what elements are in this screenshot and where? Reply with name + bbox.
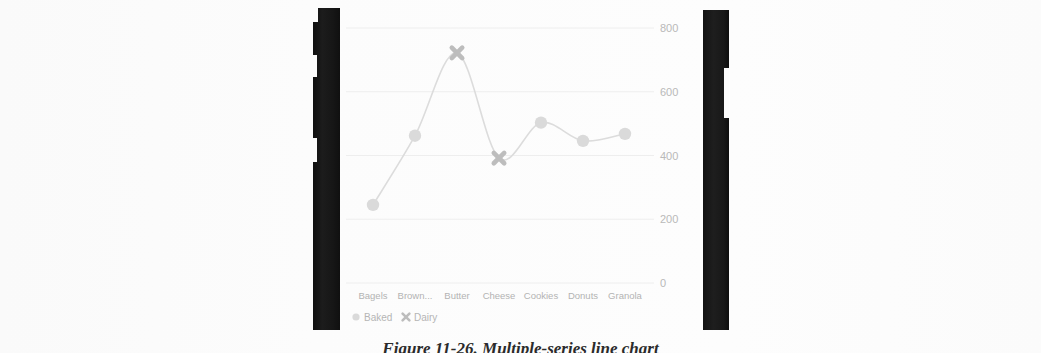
legend-label: Baked [364, 312, 392, 323]
scanned-figure-page: 0200400600800 BagelsBrown...ButterCheese… [0, 0, 1041, 353]
x-axis-category-label: Cookies [524, 290, 559, 301]
y-axis-tick-label: 200 [660, 213, 678, 225]
data-marker-circle [367, 199, 379, 211]
chart-series-line [373, 53, 625, 205]
scan-gutter-left-notch-lower [313, 138, 317, 162]
series-line-path [373, 53, 625, 205]
x-axis-category-labels: BagelsBrown...ButterCheeseCookiesDonutsG… [358, 290, 642, 301]
data-marker-circle [619, 128, 631, 140]
legend-label: Dairy [414, 312, 437, 323]
y-axis-tick-label: 0 [660, 277, 666, 289]
scan-gutter-left-notch-top [313, 8, 318, 22]
scan-gutter-right-notch [724, 68, 729, 118]
y-axis-tick-labels: 0200400600800 [660, 22, 678, 289]
scan-gutter-left [313, 8, 340, 330]
x-axis-category-label: Donuts [568, 290, 598, 301]
data-marker-circle [535, 116, 547, 128]
x-axis-category-label: Brown... [398, 290, 433, 301]
x-axis-category-label: Cheese [483, 290, 516, 301]
y-axis-tick-label: 600 [660, 86, 678, 98]
legend-marker-circle [352, 313, 359, 320]
x-axis-category-label: Bagels [358, 290, 387, 301]
line-chart-figure: 0200400600800 BagelsBrown...ButterCheese… [340, 8, 690, 328]
y-axis-tick-label: 800 [660, 22, 678, 34]
data-marker-circle [409, 130, 421, 142]
figure-caption: Figure 11-26. Multiple-series line chart [0, 337, 1041, 353]
data-marker-circle [577, 135, 589, 147]
line-chart-svg: 0200400600800 BagelsBrown...ButterCheese… [340, 8, 690, 328]
scan-gutter-left-notch-middle [313, 55, 317, 77]
chart-data-markers [367, 48, 631, 211]
chart-legend: BakedDairy [352, 312, 437, 323]
x-axis-category-label: Granola [608, 290, 643, 301]
y-axis-tick-label: 400 [660, 150, 678, 162]
scan-gutter-right [703, 10, 729, 330]
x-axis-category-label: Butter [444, 290, 469, 301]
